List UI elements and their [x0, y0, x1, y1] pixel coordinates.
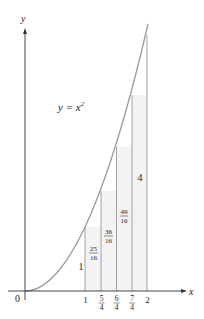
function-label: y = x2: [57, 100, 85, 113]
y-axis-arrow-icon: [23, 28, 27, 34]
x-tick-6-4-num: 6: [115, 294, 119, 303]
height-label-49-16-num: 49: [121, 208, 129, 216]
x-tick-7-4-den: 4: [130, 303, 134, 312]
riemann-sum-diagram: y x 0 y = x2 1 5 4 6 4 7 4 2 1 25 16 36 …: [0, 0, 204, 319]
x-axis-arrow-icon: [181, 289, 187, 293]
height-label-1: 1: [79, 261, 84, 272]
rectangle-4: [132, 95, 147, 291]
height-label-4: 4: [138, 172, 143, 183]
x-tick-6-4-den: 4: [115, 303, 119, 312]
x-axis-label: x: [188, 286, 194, 297]
x-tick-5-4-num: 5: [100, 294, 104, 303]
height-label-25-16-den: 16: [90, 254, 98, 262]
height-label-49-16-den: 16: [121, 217, 129, 225]
height-label-25-16-num: 25: [90, 245, 98, 253]
y-axis-label: y: [20, 13, 26, 24]
height-label-36-16-num: 36: [105, 228, 113, 236]
x-tick-labels: 1 5 4 6 4 7 4 2: [83, 294, 150, 312]
x-tick-1: 1: [83, 295, 88, 305]
x-tick-2: 2: [145, 295, 150, 305]
x-tick-7-4-num: 7: [130, 294, 134, 303]
origin-label: 0: [15, 293, 20, 304]
x-tick-5-4-den: 4: [100, 303, 104, 312]
height-label-36-16-den: 16: [105, 237, 113, 245]
